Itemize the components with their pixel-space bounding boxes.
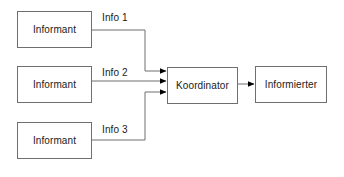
diagram-canvas: Informant Informant Informant Koordinato… <box>0 0 344 177</box>
node-informierter[interactable]: Informierter <box>255 66 327 103</box>
node-informant-3[interactable]: Informant <box>17 122 92 159</box>
node-label: Informant <box>33 80 76 90</box>
node-informant-1[interactable]: Informant <box>17 11 92 48</box>
node-informant-2[interactable]: Informant <box>17 66 92 103</box>
edge-label-info-1: Info 1 <box>102 13 128 23</box>
node-label: Koordinator <box>176 81 229 91</box>
edge-label-info-2: Info 2 <box>102 68 128 78</box>
node-koordinator[interactable]: Koordinator <box>167 67 238 104</box>
node-label: Informant <box>33 25 76 35</box>
node-label: Informant <box>33 136 76 146</box>
edge-label-info-3: Info 3 <box>102 125 128 135</box>
connector-info-1 <box>92 30 166 71</box>
node-label: Informierter <box>265 80 317 90</box>
